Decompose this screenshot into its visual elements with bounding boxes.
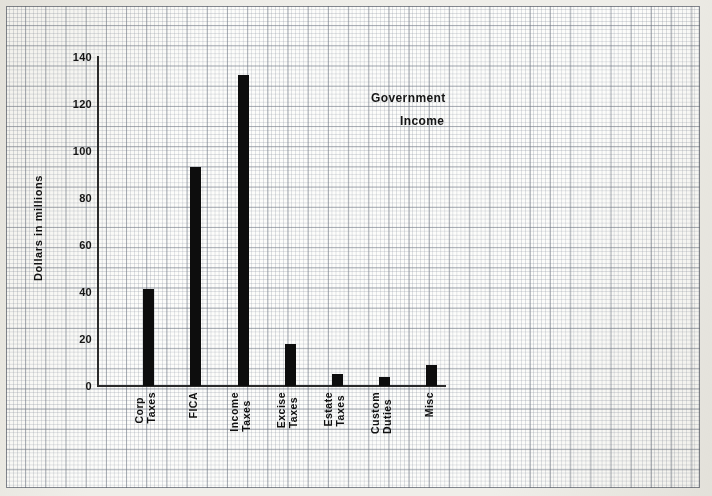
x-label-corp-taxes: Corp Taxes — [134, 392, 190, 424]
bar-custom-duties — [379, 377, 390, 386]
x-label-misc-line1: Misc — [424, 392, 435, 417]
x-label-excise-taxes-line1: Excise — [276, 392, 287, 428]
y-tick-0: 0 — [58, 380, 92, 392]
y-tick-100: 100 — [58, 145, 92, 157]
x-label-estate-taxes-line2: Taxes — [335, 392, 346, 427]
x-label-income-taxes-line1: Income — [229, 392, 240, 432]
y-axis-line — [97, 56, 99, 387]
x-label-misc: Misc — [424, 392, 480, 417]
x-label-custom-duties-line1: Custom — [370, 392, 381, 434]
x-label-custom-duties: Custom Duties — [370, 392, 426, 434]
bar-corp-taxes — [143, 289, 154, 386]
chart-title-line1: Government — [371, 91, 446, 105]
y-axis-title: Dollars in millions — [32, 148, 44, 308]
y-tick-40: 40 — [58, 286, 92, 298]
y-axis-tick-labels: 0 20 40 60 80 100 120 140 — [52, 0, 92, 496]
bar-income-taxes — [238, 75, 249, 386]
bar-chart: 0 20 40 60 80 100 120 140 Dollars in mil… — [0, 0, 712, 496]
x-label-corp-taxes-line1: Corp — [134, 392, 145, 424]
x-label-custom-duties-line2: Duties — [382, 392, 393, 434]
bar-estate-taxes — [332, 374, 343, 386]
x-label-income-taxes-line2: Taxes — [241, 392, 252, 432]
y-tick-80: 80 — [58, 192, 92, 204]
screenshot-root: 0 20 40 60 80 100 120 140 Dollars in mil… — [0, 0, 712, 496]
x-label-estate-taxes-line1: Estate — [323, 392, 334, 427]
y-tick-120: 120 — [58, 98, 92, 110]
bar-misc — [426, 365, 437, 386]
bar-excise-taxes — [285, 344, 296, 386]
bar-fica — [190, 167, 201, 386]
x-label-fica-line1: FICA — [188, 392, 199, 419]
x-label-corp-taxes-line2: Taxes — [146, 392, 157, 424]
y-tick-60: 60 — [58, 239, 92, 251]
y-tick-140: 140 — [58, 51, 92, 63]
chart-title-line2: Income — [400, 114, 444, 128]
x-label-excise-taxes-line2: Taxes — [288, 392, 299, 428]
y-tick-20: 20 — [58, 333, 92, 345]
